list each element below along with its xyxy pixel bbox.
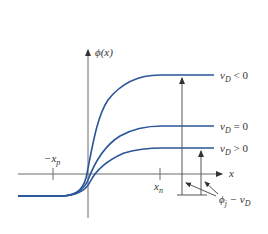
tick-xn-sub: n [159,186,163,195]
barrier-label: ϕj − vD [219,193,251,208]
pn-junction-potential-diagram: x ϕ(x) −xp xn vD < 0 vD = 0 vD > 0 ϕj − … [0,0,268,234]
barrier-label-rest: − v [227,193,245,205]
label-forward-bias: vD > 0 [220,142,248,157]
tick-xn-label: xn [153,180,163,195]
label-forward-rel: > 0 [231,142,249,154]
label-zero-rel: = 0 [231,120,249,132]
tick-neg-xp-main: −x [44,152,56,164]
label-reverse-rel: < 0 [231,69,249,81]
barrier-label-rest-sub: D [244,199,251,208]
label-zero-bias: vD = 0 [220,120,248,135]
y-axis-label: ϕ(x) [95,46,113,59]
label-reverse-bias: vD < 0 [220,69,248,84]
x-axis-label: x [228,167,234,179]
curve-reverse-bias [18,75,214,196]
tick-neg-xp-sub: p [55,158,60,167]
tick-neg-xp-label: −xp [44,152,60,167]
